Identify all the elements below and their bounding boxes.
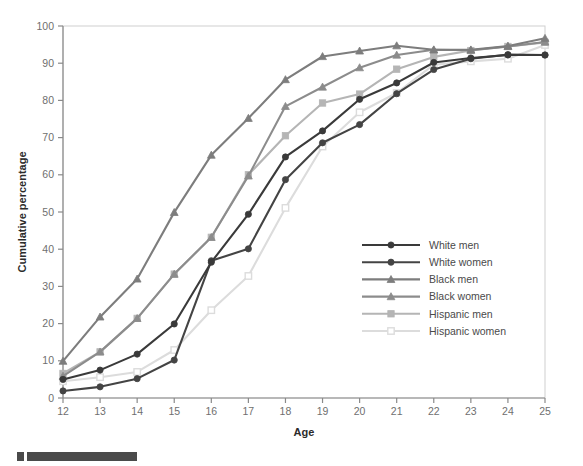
data-point-marker (388, 311, 394, 317)
data-point-marker (134, 369, 140, 375)
chart-legend: White menWhite womenBlack menBlack women… (362, 239, 506, 337)
data-point-marker (468, 55, 474, 61)
data-point-marker (394, 91, 400, 97)
series-white-women (60, 52, 548, 394)
marker-circle (282, 177, 288, 183)
marker-circle (171, 321, 177, 327)
y-tick-label: 40 (42, 243, 54, 255)
x-tick-label: 12 (57, 405, 69, 417)
data-point-marker (431, 66, 437, 72)
series-line (63, 55, 545, 391)
footer-marker (17, 452, 24, 461)
data-point-marker (97, 374, 103, 380)
data-point-marker (282, 177, 288, 183)
marker-circle (208, 259, 214, 265)
data-point-marker (245, 273, 251, 279)
legend-label: Black men (429, 273, 478, 285)
legend-label: White women (429, 256, 493, 268)
marker-circle (319, 128, 325, 134)
marker-circle (388, 259, 394, 265)
marker-square (388, 311, 394, 317)
x-tick-label: 19 (317, 405, 329, 417)
x-tick-label: 16 (205, 405, 217, 417)
marker-circle (388, 242, 394, 248)
marker-circle (134, 351, 140, 357)
marker-square-open (245, 273, 251, 279)
x-tick-label: 18 (280, 405, 292, 417)
footer-rule (27, 452, 137, 461)
x-axis-title: Age (294, 426, 315, 438)
data-point-marker (393, 66, 399, 72)
marker-circle (394, 91, 400, 97)
y-tick-label: 30 (42, 280, 54, 292)
x-tick-label: 22 (428, 405, 440, 417)
x-tick-label: 14 (131, 405, 143, 417)
data-point-marker (282, 154, 288, 160)
x-tick-label: 25 (539, 405, 551, 417)
marker-circle (357, 96, 363, 102)
y-tick-label: 10 (42, 354, 54, 366)
data-point-marker (134, 351, 140, 357)
legend-item-white-women[interactable]: White women (362, 256, 493, 268)
legend-label: Black women (429, 290, 492, 302)
marker-circle (171, 357, 177, 363)
data-point-marker (208, 307, 214, 313)
marker-circle (319, 140, 325, 146)
cumulative-percentage-line-chart: 0102030405060708090100121314151617181920… (0, 0, 583, 466)
data-point-marker (245, 246, 251, 252)
data-point-marker (171, 357, 177, 363)
data-point-marker (282, 133, 288, 139)
data-point-marker (282, 205, 288, 211)
marker-circle (505, 52, 511, 58)
data-point-marker (319, 100, 325, 106)
marker-circle (468, 55, 474, 61)
legend-item-hispanic-women[interactable]: Hispanic women (362, 325, 506, 337)
legend-item-white-men[interactable]: White men (362, 239, 479, 251)
legend-item-black-men[interactable]: Black men (362, 273, 478, 285)
y-tick-label: 20 (42, 317, 54, 329)
data-point-marker (388, 242, 394, 248)
x-tick-label: 21 (391, 405, 403, 417)
data-point-marker (505, 52, 511, 58)
data-point-marker (97, 384, 103, 390)
y-tick-label: 100 (36, 20, 54, 32)
data-point-marker (356, 109, 362, 115)
marker-circle (245, 246, 251, 252)
marker-square-open (208, 307, 214, 313)
marker-circle (60, 376, 66, 382)
series-line (63, 42, 545, 373)
marker-circle (357, 121, 363, 127)
marker-circle (542, 52, 548, 58)
legend-label: Hispanic women (429, 325, 506, 337)
plot-area-border (63, 26, 545, 398)
y-axis-title: Cumulative percentage (16, 151, 28, 272)
legend-label: Hispanic men (429, 308, 493, 320)
y-tick-label: 70 (42, 131, 54, 143)
data-point-marker (97, 367, 103, 373)
chart-figure: 0102030405060708090100121314151617181920… (0, 0, 583, 466)
y-tick-label: 80 (42, 94, 54, 106)
y-tick-label: 90 (42, 57, 54, 69)
data-point-marker (319, 140, 325, 146)
legend-item-hispanic-men[interactable]: Hispanic men (362, 308, 493, 320)
data-point-marker (357, 121, 363, 127)
data-point-marker (319, 128, 325, 134)
data-point-marker (357, 96, 363, 102)
x-tick-label: 24 (502, 405, 514, 417)
data-point-marker (394, 80, 400, 86)
data-point-marker (60, 376, 66, 382)
marker-circle (97, 384, 103, 390)
data-point-marker (388, 328, 394, 334)
marker-circle (282, 154, 288, 160)
marker-square-open (97, 374, 103, 380)
x-tick-label: 17 (243, 405, 255, 417)
marker-square (282, 133, 288, 139)
marker-square-open (388, 328, 394, 334)
marker-square (393, 66, 399, 72)
legend-label: White men (429, 239, 479, 251)
marker-square (319, 100, 325, 106)
x-tick-label: 13 (94, 405, 106, 417)
legend-item-black-women[interactable]: Black women (362, 290, 492, 302)
data-point-marker (388, 259, 394, 265)
x-tick-label: 23 (465, 405, 477, 417)
